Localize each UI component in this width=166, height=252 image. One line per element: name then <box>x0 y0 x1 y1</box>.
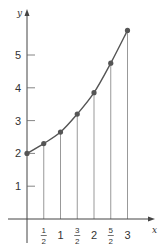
y-tick-label: 4 <box>15 82 21 94</box>
svg-text:1: 1 <box>42 226 47 235</box>
y-tick-label: 3 <box>15 115 21 127</box>
x-ticks: 121322523 <box>41 226 131 246</box>
svg-text:2: 2 <box>75 237 80 246</box>
data-point <box>41 141 46 146</box>
x-tick-label: 52 <box>108 226 114 246</box>
y-axis-arrow-icon <box>25 9 30 16</box>
x-tick-label: 1 <box>57 229 63 241</box>
x-tick-label: 2 <box>91 229 97 241</box>
x-axis-label: x <box>152 225 157 235</box>
y-ticks: 12345 <box>15 49 35 192</box>
chart: x y 12345 121322523 <box>0 0 166 252</box>
data-point <box>108 61 113 66</box>
x-tick-label: 32 <box>74 226 80 246</box>
y-tick-label: 5 <box>15 49 21 61</box>
y-tick-label: 1 <box>15 180 21 192</box>
x-tick-label: 3 <box>124 229 130 241</box>
data-point <box>125 28 130 33</box>
drop-lines <box>44 30 128 219</box>
x-tick-label: 12 <box>41 226 47 246</box>
svg-text:3: 3 <box>75 226 80 235</box>
x-axis-arrow-icon <box>148 217 155 222</box>
y-tick-label: 2 <box>15 147 21 159</box>
data-point <box>75 111 80 116</box>
svg-text:5: 5 <box>109 226 114 235</box>
data-point <box>24 151 29 156</box>
svg-text:2: 2 <box>42 237 47 246</box>
data-point <box>91 90 96 95</box>
y-axis-label: y <box>16 8 23 18</box>
data-point <box>58 129 63 134</box>
axes: x y <box>8 8 157 243</box>
svg-text:2: 2 <box>109 237 114 246</box>
